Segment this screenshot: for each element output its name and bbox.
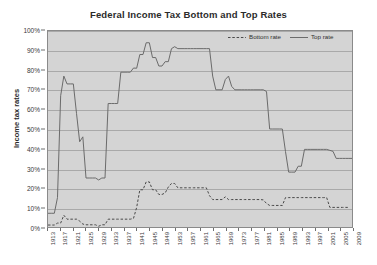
solid-line-icon [290,34,308,39]
x-tick-mark [315,228,316,231]
y-tick-mark [41,188,45,189]
y-tick-label: 90% [27,46,40,53]
x-tick-mark [47,228,48,231]
x-tick-mark [302,228,303,231]
series-line-bottom-rate [48,182,349,226]
y-tick-label: 20% [27,185,40,192]
y-tick-label: 30% [27,165,40,172]
y-tick-mark [41,30,45,31]
y-tick-mark [41,148,45,149]
x-tick-label: 1965 [215,232,221,245]
plot-area [47,30,353,228]
x-tick-label: 1953 [177,232,183,245]
x-tick-label: 1941 [139,232,145,245]
chart-container: Federal Income Tax Bottom and Top Rates … [0,0,377,265]
series-lines [48,31,352,227]
y-tick-mark [41,228,45,229]
x-tick-label: 1925 [88,232,94,245]
x-tick-mark [98,228,99,231]
y-tick-label: 60% [27,106,40,113]
y-tick-mark [41,89,45,90]
legend-label: Bottom rate [249,33,281,40]
y-tick-label: 40% [27,145,40,152]
x-tick-label: 1973 [241,232,247,245]
x-tick-mark [251,228,252,231]
y-tick-label: 50% [27,126,40,133]
x-axis: 1913191719211925192919331937194119451949… [47,228,353,265]
x-tick-mark [149,228,150,231]
x-tick-label: 1997 [317,232,323,245]
x-tick-label: 2005 [343,232,349,245]
x-tick-mark [353,228,354,231]
x-tick-mark [175,228,176,231]
chart-title: Federal Income Tax Bottom and Top Rates [0,9,377,20]
y-axis: Income tax rates 0%10%20%30%40%50%60%70%… [0,30,45,228]
x-tick-mark [289,228,290,231]
x-tick-mark [328,228,329,231]
legend-label: Top rate [311,33,333,40]
x-tick-mark [124,228,125,231]
y-tick-mark [41,49,45,50]
x-tick-mark [226,228,227,231]
x-tick-mark [60,228,61,231]
dashed-line-icon [228,34,246,39]
y-tick-label: 100% [23,27,40,34]
legend-item[interactable]: Top rate [290,33,333,40]
chart-legend: Bottom rateTop rate [228,33,333,40]
x-tick-mark [111,228,112,231]
x-tick-label: 1985 [279,232,285,245]
x-tick-label: 2009 [356,232,362,245]
x-tick-label: 2001 [330,232,336,245]
y-tick-mark [41,168,45,169]
x-tick-label: 1981 [266,232,272,245]
y-tick-label: 80% [27,66,40,73]
x-tick-mark [200,228,201,231]
x-tick-mark [277,228,278,231]
y-tick-mark [41,129,45,130]
y-axis-title: Income tax rates [12,59,21,179]
x-tick-label: 1961 [203,232,209,245]
x-tick-label: 1949 [164,232,170,245]
y-tick-mark [41,69,45,70]
y-tick-mark [41,109,45,110]
x-tick-label: 1921 [75,232,81,245]
x-tick-mark [85,228,86,231]
x-tick-mark [136,228,137,231]
x-tick-mark [264,228,265,231]
x-tick-label: 1917 [62,232,68,245]
x-tick-label: 1937 [126,232,132,245]
x-tick-mark [340,228,341,231]
x-tick-mark [73,228,74,231]
x-tick-label: 1913 [50,232,56,245]
y-tick-label: 0% [31,225,40,232]
y-tick-label: 10% [27,205,40,212]
x-tick-label: 1993 [305,232,311,245]
x-tick-label: 1977 [254,232,260,245]
x-tick-label: 1957 [190,232,196,245]
series-line-top-rate [48,43,352,214]
x-tick-label: 1929 [101,232,107,245]
legend-item[interactable]: Bottom rate [228,33,281,40]
x-tick-mark [187,228,188,231]
y-tick-mark [41,208,45,209]
x-tick-mark [213,228,214,231]
x-tick-mark [238,228,239,231]
x-tick-label: 1945 [152,232,158,245]
x-tick-label: 1969 [228,232,234,245]
x-tick-label: 1989 [292,232,298,245]
x-tick-label: 1933 [113,232,119,245]
x-tick-mark [162,228,163,231]
y-tick-label: 70% [27,86,40,93]
